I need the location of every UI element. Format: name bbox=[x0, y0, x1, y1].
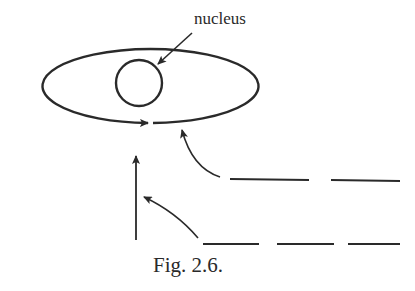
nucleus-circle bbox=[116, 60, 162, 106]
upper-curve-arrow bbox=[182, 130, 220, 177]
nucleus-label: nucleus bbox=[194, 9, 246, 29]
diagram-canvas bbox=[0, 0, 415, 291]
upper-dash-1 bbox=[230, 179, 309, 180]
upper-dash-2 bbox=[331, 180, 400, 181]
lower-curve-arrow bbox=[144, 197, 198, 238]
orbit-ellipse bbox=[42, 49, 258, 123]
figure: nucleus Fig. 2.6. bbox=[0, 0, 415, 291]
figure-caption: Fig. 2.6. bbox=[153, 253, 223, 278]
